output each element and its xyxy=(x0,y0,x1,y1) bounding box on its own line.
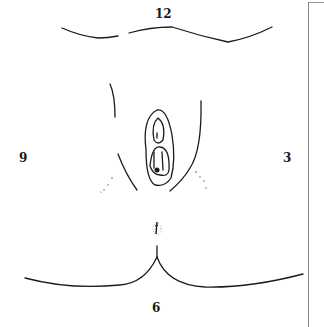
stipple-dots xyxy=(100,171,206,192)
clock-label-6: 6 xyxy=(152,302,160,314)
left-fold-upper xyxy=(110,84,115,117)
clock-label-3: 3 xyxy=(283,152,291,164)
right-fold xyxy=(170,101,201,191)
lower-inner-line-2 xyxy=(162,152,163,170)
page-frame-edge xyxy=(308,2,324,327)
top-contour-right xyxy=(129,27,272,42)
bottom-contour-left xyxy=(25,257,157,286)
lower-inner-loop xyxy=(150,147,169,175)
lesion-dot xyxy=(155,168,160,173)
bottom-contour-right xyxy=(157,257,303,287)
outer-oval xyxy=(145,110,174,186)
left-fold-lower xyxy=(118,154,137,190)
top-contour-left xyxy=(62,28,118,38)
perineal-mark xyxy=(153,222,161,235)
clock-label-12: 12 xyxy=(155,8,172,20)
clock-diagram: 12 3 6 9 xyxy=(0,0,324,327)
upper-inner-loop xyxy=(153,118,164,143)
anatomical-line-drawing xyxy=(0,0,324,327)
clock-label-9: 9 xyxy=(19,152,27,164)
